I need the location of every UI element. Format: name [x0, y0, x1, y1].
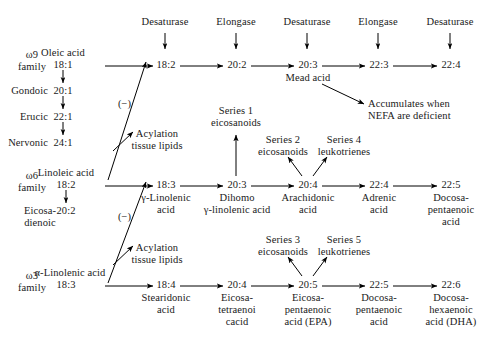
node-omega9-18-1: 18:1: [53, 59, 72, 71]
node-omega9-24-1: 24:1: [53, 137, 72, 149]
node-name-oleic-acid: Oleic acid: [41, 47, 85, 59]
enzyme-header-desaturase-2: Desaturase: [283, 16, 330, 28]
node-omega3-18-4: 18:4: [156, 279, 175, 291]
node-omega9-20-1: 20:1: [53, 85, 72, 97]
node-omega6-22-5: 22:5: [441, 179, 460, 191]
node-omega6-18-3: 18:3: [156, 179, 175, 191]
arrow-w3-acylation: [113, 246, 133, 265]
node-name-linoleic-acid: Linoleic acid: [38, 167, 94, 179]
node-name-erucic: Erucic: [20, 111, 48, 123]
node-name-eicosatetraenoic-acid: Eicosa- tetraenoi cacid: [218, 292, 256, 327]
arrow-20-4-to-series4: [313, 157, 327, 176]
node-omega3-22-5: 22:5: [369, 279, 388, 291]
node-name-adrenic-acid: Adrenic acid: [362, 192, 397, 216]
node-name-arachidonic-acid: Arachidonic acid: [282, 192, 335, 216]
node-omega9-22-1: 22:1: [53, 111, 72, 123]
node-omega9-18-2: 18:2: [156, 59, 175, 71]
node-omega3-20-4: 20:4: [227, 279, 246, 291]
node-omega6-18-2: 18:2: [56, 179, 75, 191]
inhibition-marker-omega3: (−): [118, 211, 131, 223]
node-omega6-22-4: 22:4: [369, 179, 388, 191]
annotation-nefa-deficient: Accumulates when NEFA are deficient: [368, 98, 451, 122]
node-name-docosahexaenoic-acid-dha: Docosa- hexaenoic acid (DHA): [426, 292, 477, 327]
node-omega9-22-4: 22:4: [441, 59, 460, 71]
node-name-eicosadienoic: Eicosa- dienoic: [24, 205, 56, 229]
enzyme-header-desaturase-1: Desaturase: [141, 16, 188, 28]
branch-label-series-3-eicosanoids: Series 3 eicosanoids: [258, 234, 308, 258]
label-acylation-omega6: Acylation tissue lipids: [131, 128, 182, 152]
inhibition-marker-omega6: (−): [118, 98, 131, 110]
node-name-dihomo-gamma-linolenic-acid: Dihomo γ-linolenic acid: [204, 192, 271, 216]
arrow-w6-inhibits-w9: [108, 62, 146, 180]
pathway-diagram: Desaturase Elongase Desaturase Elongase …: [0, 0, 494, 350]
enzyme-header-elongase-2: Elongase: [358, 16, 397, 28]
node-omega3-22-6: 22:6: [441, 279, 460, 291]
arrow-20-5-to-series3: [288, 257, 302, 276]
arrow-mead-acid-to-nefa-note: [322, 84, 364, 104]
node-omega3-18-3: 18:3: [56, 279, 75, 291]
node-omega6-20-3: 20:3: [227, 179, 246, 191]
node-omega9-20-2: 20:2: [227, 59, 246, 71]
node-name-mead-acid: Mead acid: [286, 72, 331, 84]
node-name-nervonic: Nervonic: [8, 137, 48, 149]
enzyme-header-elongase-1: Elongase: [216, 16, 255, 28]
branch-label-series-5-leukotrienes: Series 5 leukotrienes: [318, 234, 371, 258]
branch-label-series-4-leukotrienes: Series 4 leukotrienes: [318, 134, 371, 158]
node-name-gamma-linolenic-acid: γ-Linolenic acid: [141, 192, 190, 216]
node-name-gondoic: Gondoic: [11, 85, 48, 97]
arrow-20-4-to-series2: [288, 157, 302, 176]
branch-label-series-1-eicosanoids: Series 1 eicosanoids: [211, 105, 261, 129]
node-omega6-20-2: 20:2: [56, 205, 75, 217]
enzyme-header-desaturase-3: Desaturase: [426, 16, 473, 28]
node-omega6-20-4: 20:4: [298, 179, 317, 191]
branch-label-series-2-eicosanoids: Series 2 eicosanoids: [258, 134, 308, 158]
arrow-20-5-to-series5: [313, 257, 327, 276]
node-omega3-20-5: 20:5: [298, 279, 317, 291]
node-name-docosapentaenoic-acid-w3: Docosa- pentaenoic acid: [356, 292, 402, 327]
node-name-alpha-linolenic-acid: α-Linolenic acid: [35, 267, 106, 279]
label-acylation-omega3: Acylation tissue lipids: [131, 242, 182, 266]
node-omega9-20-3: 20:3: [298, 59, 317, 71]
node-omega9-22-3: 22:3: [369, 59, 388, 71]
node-name-eicosapentaenoic-acid-epa: Eicosa- pentaenoic acid (EPA): [285, 292, 332, 327]
node-name-docosapentaenoic-acid-w6: Docosa- pentaenoic acid: [428, 192, 474, 227]
node-name-stearidonic-acid: Stearidonic acid: [142, 292, 191, 316]
